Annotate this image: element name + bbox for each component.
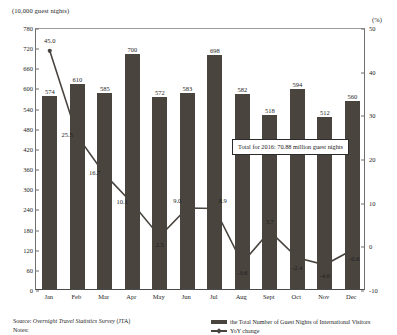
yoy-value-label: 45.0 — [44, 38, 55, 45]
yoy-line-path — [50, 51, 353, 265]
x-axis-tick-label: Jul — [210, 294, 218, 301]
secondary-y-axis-tick-label: -10 — [369, 288, 378, 295]
yoy-line-marker — [103, 172, 107, 176]
yoy-value-label: 9.0 — [173, 198, 181, 205]
secondary-y-axis-tick-label: 50 — [369, 26, 376, 33]
y-axis-tick-label: 300 — [23, 187, 33, 194]
yoy-line-marker — [130, 201, 134, 205]
yoy-value-label: 10.1 — [117, 199, 128, 206]
chart-legend: the Total Number of Guest Nights of Inte… — [211, 317, 370, 335]
yoy-value-label: 25.5 — [62, 132, 73, 139]
yoy-line-marker — [185, 206, 189, 210]
x-axis-tick-label: Oct — [292, 294, 301, 301]
y-axis-tick-label: 360 — [23, 167, 33, 174]
chart-container: (10,000 guest nights) (%) 06012018024030… — [0, 0, 397, 335]
yoy-line-marker — [48, 49, 52, 53]
secondary-y-axis-title: (%) — [372, 16, 382, 23]
y-axis-tick-label: 540 — [23, 106, 33, 113]
x-axis-tick-label: Aug — [236, 294, 247, 301]
x-axis-tick-label: Jan — [44, 294, 53, 301]
x-axis-tick-label: Sept — [263, 294, 275, 301]
yoy-value-label: 16.7 — [89, 170, 100, 177]
notes-label: Notes: — [13, 327, 29, 333]
x-axis-tick-label: Apr — [126, 294, 136, 301]
x-axis-tick-label: Nov — [318, 294, 329, 301]
legend-item-bars: the Total Number of Guest Nights of Inte… — [211, 317, 370, 326]
y-axis-tick-label: 720 — [23, 46, 33, 53]
secondary-y-axis-tick-label: 20 — [369, 157, 376, 164]
yoy-line-marker — [295, 256, 299, 260]
source-prefix: Source: — [13, 318, 31, 324]
secondary-y-axis-tick-label: 0 — [369, 244, 372, 251]
line-series — [36, 29, 366, 291]
y-axis-tick-label: 660 — [23, 66, 33, 73]
yoy-value-label: 2.5 — [156, 242, 164, 249]
yoy-value-label: -3.6 — [237, 270, 247, 277]
yoy-line-marker — [213, 206, 217, 210]
source-note: Source: Overnight Travel Statistics Surv… — [13, 318, 130, 324]
y-axis-tick-label: 120 — [23, 247, 33, 254]
total-annotation: Total for 2016: 70.88 million guest nigh… — [232, 139, 349, 155]
y-axis-tick-label: 0 — [30, 288, 33, 295]
legend-bar-label: the Total Number of Guest Nights of Inte… — [230, 319, 370, 325]
y-axis-tick-label: 180 — [23, 227, 33, 234]
yoy-value-label: 3.7 — [266, 219, 274, 226]
yoy-line-marker — [240, 261, 244, 265]
yoy-value-label: -0.6 — [349, 256, 359, 263]
source-agency: (JTA) — [116, 318, 130, 324]
plot-inner: 060120180240300360420480540600660720780 … — [36, 29, 364, 289]
secondary-y-axis-tick-label: 10 — [369, 200, 376, 207]
y-axis-tick-label: 240 — [23, 207, 33, 214]
y-axis-tick-label: 60 — [27, 268, 34, 275]
y-axis-tick-label: 420 — [23, 147, 33, 154]
y-axis-tick-label: 480 — [23, 127, 33, 134]
yoy-line-marker — [158, 234, 162, 238]
yoy-line-marker — [268, 229, 272, 233]
x-axis-tick-label: Jun — [182, 294, 191, 301]
yoy-line-marker — [75, 134, 79, 138]
secondary-y-axis-tick-label: 40 — [369, 69, 376, 76]
secondary-y-axis-tick-label: 30 — [369, 113, 376, 120]
bar-swatch-icon — [211, 320, 227, 324]
y-axis-tick-label: 780 — [23, 26, 33, 33]
source-survey-name: Overnight Travel Statistics Survey — [33, 318, 115, 324]
y-axis-title: (10,000 guest nights) — [12, 7, 69, 14]
x-axis-tick-label: May — [153, 294, 165, 301]
line-swatch-icon — [211, 328, 227, 333]
y-axis-tick-label: 600 — [23, 86, 33, 93]
x-axis-tick-label: Mar — [98, 294, 109, 301]
plot-area: 060120180240300360420480540600660720780 … — [35, 28, 365, 290]
yoy-line-marker — [323, 263, 327, 267]
legend-item-line: YoY change — [211, 326, 370, 335]
x-axis-tick-label: Dec — [346, 294, 356, 301]
legend-line-label: YoY change — [230, 328, 259, 334]
x-axis-tick-label: Feb — [71, 294, 81, 301]
yoy-value-label: 8.9 — [219, 198, 227, 205]
yoy-line-marker — [350, 248, 354, 252]
yoy-value-label: -2.4 — [292, 265, 302, 272]
yoy-value-label: -4.0 — [320, 273, 330, 280]
